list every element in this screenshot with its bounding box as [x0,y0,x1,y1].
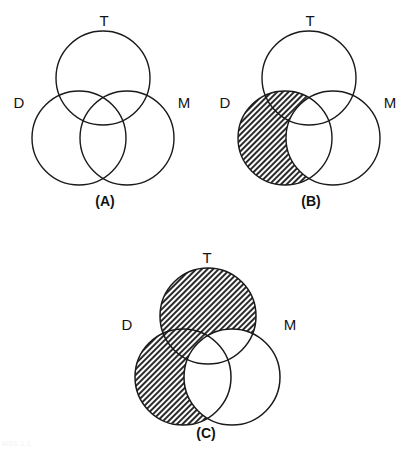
set-label-t: T [202,249,211,266]
panel-a: T D M (A) [14,12,191,209]
panel-caption-c: (C) [196,425,215,441]
shaded-region-d-union-t-minus-m [125,260,290,430]
panel-caption-b: (B) [301,193,320,209]
set-label-d: D [14,94,25,111]
set-label-t: T [305,12,314,29]
set-label-m: M [284,316,297,333]
circle-t [56,31,150,125]
venn-figure: T D M (A) T D M (B) [0,0,412,464]
shaded-region-d-minus-m [230,85,340,195]
panel-c: T D M (C) [122,249,297,441]
set-label-t: T [99,12,108,29]
panel-b: T D M (B) [220,12,397,209]
circle-d [32,91,126,185]
set-label-d: D [122,316,133,333]
circle-m [80,91,174,185]
panel-b-shading [230,85,340,195]
panel-c-shading [125,260,290,430]
set-label-m: M [384,94,397,111]
venn-diagram-canvas: T D M (A) T D M (B) [0,0,412,464]
panel-a-circles [32,31,174,185]
corner-artifact-text: MSS 1.1 [2,440,31,447]
panel-caption-a: (A) [95,193,114,209]
set-label-m: M [178,94,191,111]
set-label-d: D [220,94,231,111]
